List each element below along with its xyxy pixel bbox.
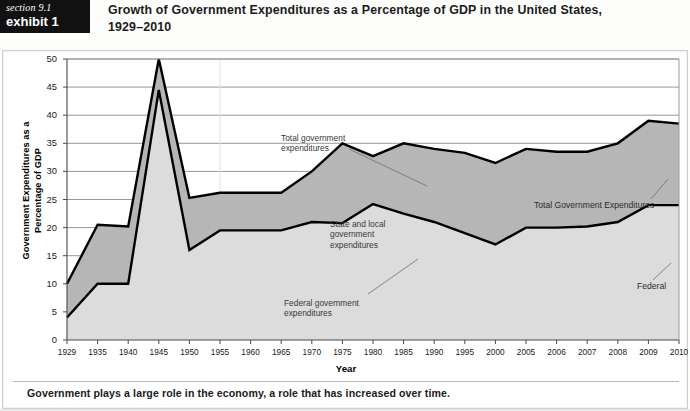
- x-tick-label: 1965: [264, 347, 298, 357]
- x-tick-label: 2010: [662, 347, 690, 357]
- annotation-total-right: Total Government Expenditures: [534, 200, 654, 210]
- x-tick-label: 1995: [448, 347, 482, 357]
- badge-section-label: section 9.1: [6, 2, 84, 14]
- annotation-federal-government: Federal government expenditures: [284, 298, 359, 319]
- x-tick-label: 1990: [417, 347, 451, 357]
- x-tick-label: 1940: [111, 347, 145, 357]
- x-tick-label: 1950: [172, 347, 206, 357]
- x-axis-title: Year: [3, 363, 689, 374]
- badge-exhibit-label: exhibit 1: [6, 14, 84, 29]
- page-title: Growth of Government Expenditures as a P…: [108, 2, 628, 35]
- x-tick-label: 1980: [356, 347, 390, 357]
- chart-panel: Government Expenditures as a Percentage …: [2, 50, 688, 409]
- x-tick-label: 2005: [509, 347, 543, 357]
- x-tick-label: 1960: [234, 347, 268, 357]
- exhibit-page: section 9.1 exhibit 1 Growth of Governme…: [0, 0, 690, 411]
- exhibit-caption: Government plays a large role in the eco…: [27, 387, 667, 399]
- caption-divider: [13, 381, 679, 382]
- chart-svg: [3, 51, 689, 376]
- x-tick-label: 1945: [142, 347, 176, 357]
- x-tick-label: 1975: [325, 347, 359, 357]
- annotation-federal-right: Federal: [637, 281, 666, 291]
- x-tick-label: 2008: [601, 347, 635, 357]
- x-tick-label: 2007: [570, 347, 604, 357]
- x-tick-label: 2000: [478, 347, 512, 357]
- x-tick-label: 1985: [387, 347, 421, 357]
- annotation-state-local: State and local government expenditures: [330, 219, 385, 250]
- x-tick-label: 1929: [50, 347, 84, 357]
- x-tick-label: 2006: [540, 347, 574, 357]
- x-tick-label: 1955: [203, 347, 237, 357]
- x-tick-label: 1935: [81, 347, 115, 357]
- x-tick-label: 1970: [295, 347, 329, 357]
- chart-area: Government Expenditures as a Percentage …: [3, 51, 689, 376]
- exhibit-badge: section 9.1 exhibit 1: [0, 0, 90, 33]
- x-tick-label: 2009: [631, 347, 665, 357]
- annotation-total-government: Total government expenditures: [281, 133, 345, 154]
- exhibit-header: section 9.1 exhibit 1 Growth of Governme…: [0, 0, 690, 50]
